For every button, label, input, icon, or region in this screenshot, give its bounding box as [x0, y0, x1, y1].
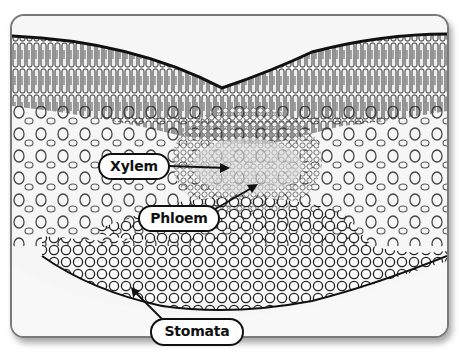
leaf-cross-section-micrograph: [12, 16, 447, 336]
micrograph-frame: [10, 14, 449, 338]
phloem-label: Phloem: [138, 205, 220, 232]
xylem-label: Xylem: [98, 153, 170, 180]
stomata-label: Stomata: [150, 318, 244, 346]
